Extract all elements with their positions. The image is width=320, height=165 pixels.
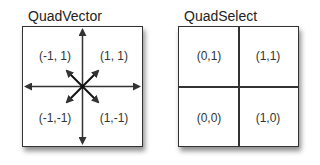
axes-and-vectors: [23, 27, 142, 146]
label-top-left: (0,1): [184, 49, 234, 63]
vector-up-left-arrow: [67, 71, 83, 87]
quad-select-title: QuadSelect: [184, 8, 257, 24]
quad-vector-title: QuadVector: [28, 8, 102, 24]
label-top-left: (-1, 1): [30, 49, 80, 63]
label-bottom-left: (-1,-1): [30, 111, 80, 125]
label-top-right: (1,1): [243, 49, 293, 63]
vector-down-left-arrow: [67, 87, 83, 103]
label-bottom-right: (1,0): [243, 111, 293, 125]
quad-vector-diagram: (-1, 1) (1, 1) (-1,-1) (1,-1): [22, 26, 143, 147]
label-bottom-right: (1,-1): [89, 111, 139, 125]
vector-up-right-arrow: [83, 71, 99, 87]
quad-select-diagram: (0,1) (1,1) (0,0) (1,0): [178, 26, 299, 147]
vector-down-right-arrow: [83, 87, 99, 103]
horizontal-divider: [179, 86, 298, 88]
origin-dot: [81, 85, 85, 89]
label-bottom-left: (0,0): [184, 111, 234, 125]
label-top-right: (1, 1): [89, 49, 139, 63]
